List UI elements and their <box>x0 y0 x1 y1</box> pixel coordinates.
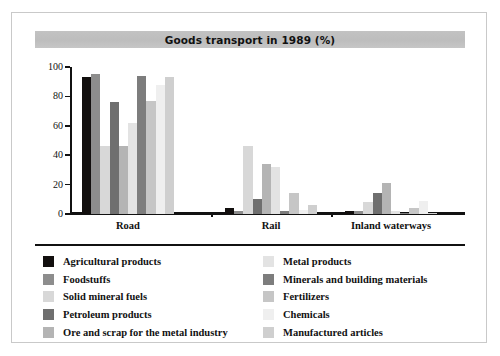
bar <box>262 164 271 214</box>
legend-item-label: Ore and scrap for the metal industry <box>63 327 228 338</box>
bar <box>119 146 128 214</box>
legend-divider <box>35 244 465 246</box>
bar <box>243 146 252 214</box>
legend-item[interactable]: Petroleum products <box>43 306 228 324</box>
legend-item-label: Petroleum products <box>63 309 152 320</box>
bar <box>165 77 174 214</box>
y-axis-tick <box>65 66 70 68</box>
legend-swatch-icon <box>263 256 274 267</box>
legend-swatch-icon <box>43 309 54 320</box>
y-axis-tick-label: 0 <box>35 208 63 219</box>
legend-item[interactable]: Manufactured articles <box>263 323 427 341</box>
x-axis-group-tick <box>331 212 333 217</box>
legend-item-label: Chemicals <box>283 309 330 320</box>
bar <box>345 211 354 214</box>
legend-item[interactable]: Metal products <box>263 253 427 271</box>
bar <box>400 213 409 214</box>
legend-swatch-icon <box>43 274 54 285</box>
y-axis-line <box>70 67 72 214</box>
legend-item[interactable]: Agricultural products <box>43 253 228 271</box>
x-axis-category-label: Inland waterways <box>305 220 477 231</box>
legend-item-label: Manufactured articles <box>283 327 383 338</box>
chart-title-banner: Goods transport in 1989 (%) <box>35 31 465 48</box>
y-axis-tick <box>65 154 70 156</box>
bar <box>225 208 234 214</box>
bar <box>299 210 308 214</box>
y-axis-tick-label: 20 <box>35 179 63 190</box>
bar <box>137 76 146 214</box>
legend-swatch-icon <box>43 291 54 302</box>
y-axis-tick-label: 100 <box>35 61 63 72</box>
bar-group <box>345 67 437 214</box>
bar-group <box>82 67 174 214</box>
bar <box>391 211 400 214</box>
legend-column-right: Metal productsMinerals and building mate… <box>263 253 427 341</box>
bar <box>146 101 155 214</box>
bar <box>280 211 289 214</box>
legend-item-label: Minerals and building materials <box>283 274 427 285</box>
bar <box>354 211 363 214</box>
legend-item[interactable]: Solid mineral fuels <box>43 288 228 306</box>
legend-item-label: Foodstuffs <box>63 274 110 285</box>
bar <box>308 205 317 214</box>
legend-swatch-icon <box>263 327 274 338</box>
legend-item-label: Agricultural products <box>63 256 161 267</box>
y-axis-tick <box>65 213 70 215</box>
bar <box>428 213 437 214</box>
y-axis-tick-label: 60 <box>35 120 63 131</box>
bar-chart-plot-area: 020406080100 RoadRailInland waterways <box>35 56 465 236</box>
legend-item[interactable]: Minerals and building materials <box>263 271 427 289</box>
bar <box>419 201 428 214</box>
legend-item[interactable]: Chemicals <box>263 306 427 324</box>
bar <box>128 123 137 214</box>
legend-swatch-icon <box>263 291 274 302</box>
bar <box>373 193 382 214</box>
bar <box>82 77 91 214</box>
bar <box>234 211 243 214</box>
page-title: Goods transport in 1989 (%) <box>165 34 336 46</box>
legend-item-label: Metal products <box>283 256 351 267</box>
legend-swatch-icon <box>263 309 274 320</box>
legend-item[interactable]: Foodstuffs <box>43 271 228 289</box>
legend-swatch-icon <box>263 274 274 285</box>
bar <box>110 102 119 214</box>
bar <box>156 85 165 214</box>
bar <box>100 146 109 214</box>
legend-column-left: Agricultural productsFoodstuffsSolid min… <box>43 253 228 341</box>
bar <box>91 74 100 214</box>
legend-swatch-icon <box>43 327 54 338</box>
chart-frame: Goods transport in 1989 (%) 020406080100… <box>11 12 487 343</box>
legend-item[interactable]: Fertilizers <box>263 288 427 306</box>
legend-item-label: Fertilizers <box>283 291 329 302</box>
bar <box>363 202 372 214</box>
y-axis-tick-label: 80 <box>35 90 63 101</box>
bar <box>382 183 391 214</box>
legend-item[interactable]: Ore and scrap for the metal industry <box>43 323 228 341</box>
y-axis-tick <box>65 125 70 127</box>
legend-item-label: Solid mineral fuels <box>63 291 147 302</box>
y-axis-tick-label: 40 <box>35 149 63 160</box>
bar <box>253 199 262 214</box>
legend-swatch-icon <box>43 256 54 267</box>
x-axis-group-tick <box>211 212 213 217</box>
y-axis-tick <box>65 96 70 98</box>
bar <box>409 208 418 214</box>
bar-group <box>225 67 317 214</box>
y-axis-tick <box>65 184 70 186</box>
bar <box>289 193 298 214</box>
bar <box>271 167 280 214</box>
